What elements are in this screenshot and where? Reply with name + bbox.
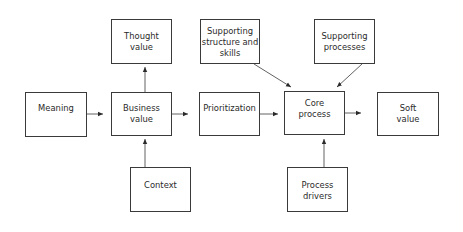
flow-diagram: Meaning Business value Prioritization Co… [0,0,463,232]
node-core-process: Core process [284,91,345,135]
node-meaning: Meaning [25,92,87,137]
node-supporting-processes: Supporting processes [314,19,375,64]
node-soft-value: Soft value [377,92,439,136]
node-label: Prioritization [203,103,256,114]
node-process-drivers: Process drivers [287,167,348,212]
node-label: Supporting processes [321,31,367,53]
node-business-value: Business value [111,92,172,136]
arrow-supporting-processes-to-core-process [337,64,362,87]
node-label: Business value [123,103,160,125]
node-supporting-structure-and-skills: Supporting structure and skills [200,19,260,64]
node-label: Soft value [397,103,420,125]
arrow-supporting-structure-to-core-process [254,64,291,87]
node-label: Context [144,180,177,191]
node-label: Thought value [124,31,159,53]
node-label: Core process [298,98,330,120]
node-label: Process drivers [302,180,334,202]
node-label: Supporting structure and skills [202,26,258,59]
node-thought-value: Thought value [111,19,172,64]
node-context: Context [130,167,191,212]
node-prioritization: Prioritization [199,92,260,136]
node-label: Meaning [38,103,74,114]
